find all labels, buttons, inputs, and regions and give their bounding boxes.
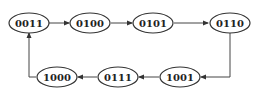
state-diagram: 0011 0100 0101 0110 1001 0111 1000 (0, 0, 258, 101)
state-label: 0101 (139, 18, 167, 29)
state-label: 0011 (15, 18, 43, 29)
state-label: 1001 (166, 72, 194, 83)
state-label: 0110 (216, 18, 244, 29)
state-label: 0111 (104, 72, 132, 83)
state-node-0101: 0101 (133, 13, 173, 33)
state-label: 0100 (76, 18, 104, 29)
state-node-0011: 0011 (9, 13, 49, 33)
state-label: 1000 (43, 72, 71, 83)
state-node-0111: 0111 (98, 67, 138, 87)
edge-0110-1001 (201, 33, 230, 77)
state-node-0100: 0100 (70, 13, 110, 33)
edge-1000-0011 (29, 33, 36, 77)
state-node-0110: 0110 (210, 13, 250, 33)
state-node-1000: 1000 (37, 67, 77, 87)
state-node-1001: 1001 (160, 67, 200, 87)
